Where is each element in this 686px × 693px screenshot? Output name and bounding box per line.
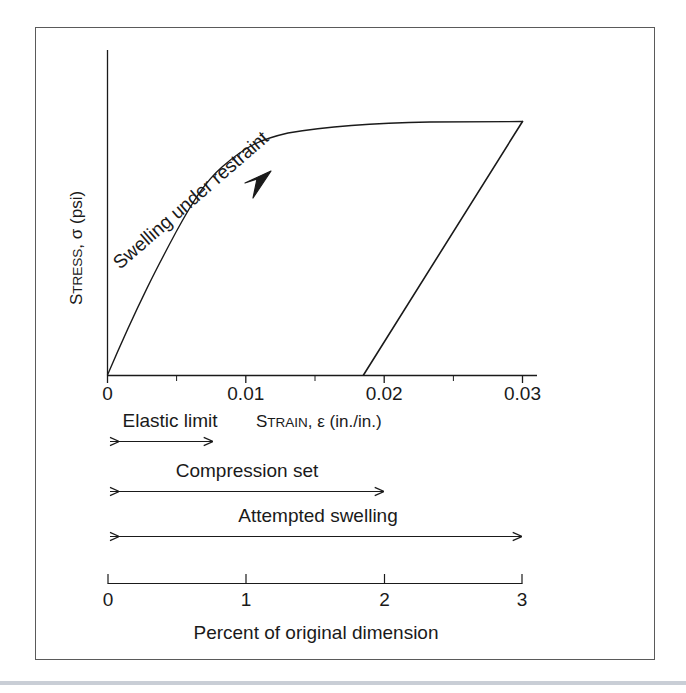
percent-scale-tick-labels: 0 1 2 3 (103, 589, 528, 610)
span-annotation-compression-set: Compression set (110, 460, 383, 492)
x-tick-label-1: 0.01 (227, 383, 264, 404)
x-axis-label: STRAIN, ε (in./in.) (256, 412, 382, 431)
x-tick-label-2: 0.02 (366, 383, 403, 404)
bottom-divider-rule (0, 681, 686, 685)
curve-label-swelling-under-restraint: Swelling under restraint (109, 126, 273, 273)
y-axis-label-tail: , σ (psi) (67, 191, 86, 249)
x-axis-tick-labels: 0 0.01 0.02 0.03 (102, 383, 541, 404)
percent-tick-label-2: 2 (379, 589, 390, 610)
percent-scale-axis: 0 1 2 3 Percent of original dimension (103, 574, 528, 643)
unloading-line (364, 122, 523, 376)
percent-scale-label: Percent of original dimension (193, 622, 438, 643)
y-axis-label-cap: S (67, 294, 86, 305)
percent-tick-label-3: 3 (517, 589, 528, 610)
curve-direction-arrow-icon (245, 171, 271, 198)
span-label-attempted-swelling: Attempted swelling (238, 505, 397, 526)
figure-root: 0 0.01 0.02 0.03 Swelling under restrain… (0, 0, 686, 693)
percent-tick-label-1: 1 (241, 589, 252, 610)
span-annotation-attempted-swelling: Attempted swelling (110, 505, 521, 537)
x-axis-label-tail: , ε (in./in.) (308, 412, 382, 431)
x-tick-label-3: 0.03 (504, 383, 541, 404)
svg-text:STRESS, σ (psi): STRESS, σ (psi) (67, 191, 86, 305)
svg-text:STRAIN, ε (in./in.): STRAIN, ε (in./in.) (256, 412, 382, 431)
x-tick-label-0: 0 (102, 383, 113, 404)
x-axis-label-cap: S (256, 412, 267, 431)
y-axis-label: STRESS, σ (psi) (67, 191, 86, 305)
percent-tick-label-0: 0 (103, 589, 114, 610)
loading-curve (108, 122, 523, 376)
y-axis-label-smallcaps: TRESS (70, 249, 85, 294)
span-label-compression-set: Compression set (176, 460, 319, 481)
x-axis-label-smallcaps: TRAIN (267, 415, 308, 430)
span-label-elastic-limit: Elastic limit (122, 410, 218, 431)
span-annotation-elastic-limit: Elastic limit (110, 410, 218, 442)
stress-strain-chart: 0 0.01 0.02 0.03 Swelling under restrain… (0, 0, 686, 693)
